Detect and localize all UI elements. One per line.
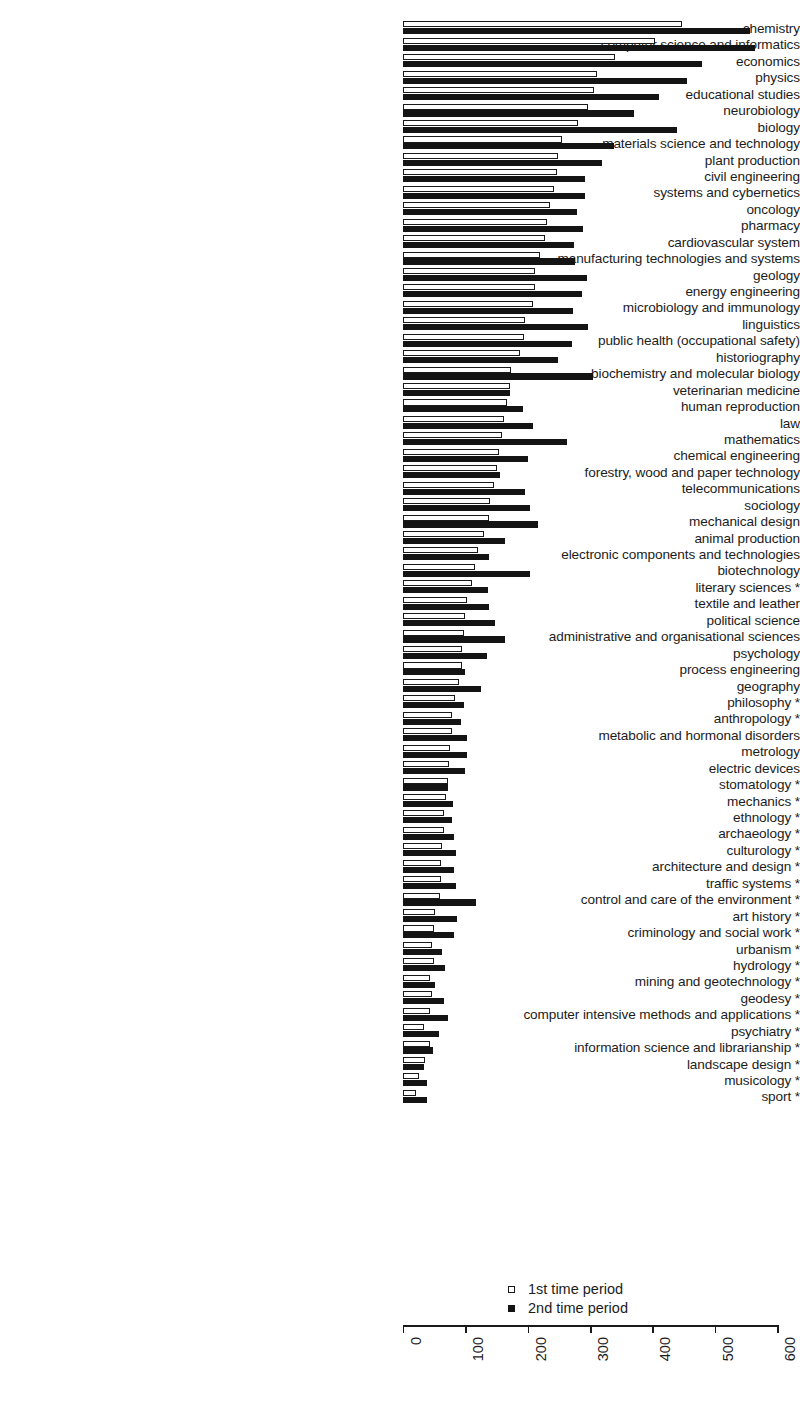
bar-second-time-period	[403, 275, 587, 281]
bar-first-time-period	[403, 301, 533, 307]
chart-row: mechanical design	[0, 514, 800, 530]
bar-first-time-period	[403, 515, 489, 521]
chart-row: law	[0, 416, 800, 432]
chart-row: traffic systems *	[0, 876, 800, 892]
bar-second-time-period	[403, 406, 523, 412]
bar-group	[403, 481, 793, 497]
bar-second-time-period	[403, 538, 505, 544]
bar-first-time-period	[403, 120, 578, 126]
chart-row: archaeology *	[0, 826, 800, 842]
bar-second-time-period	[403, 1015, 448, 1021]
bar-second-time-period	[403, 127, 677, 133]
bar-group	[403, 514, 793, 530]
bar-second-time-period	[403, 341, 572, 347]
bar-first-time-period	[403, 1041, 430, 1047]
bar-second-time-period	[403, 653, 487, 659]
chart-row: geography	[0, 679, 800, 695]
bar-group	[403, 399, 793, 415]
chart-row: literary sciences *	[0, 580, 800, 596]
bar-first-time-period	[403, 169, 557, 175]
bar-second-time-period	[403, 817, 452, 823]
bar-first-time-period	[403, 860, 441, 866]
bar-group	[403, 991, 793, 1007]
bar-group	[403, 218, 793, 234]
bar-group	[403, 909, 793, 925]
bar-group	[403, 1024, 793, 1040]
bar-first-time-period	[403, 630, 464, 636]
chart-row: plant production	[0, 153, 800, 169]
bar-first-time-period	[403, 679, 459, 685]
chart-row: forestry, wood and paper technology	[0, 465, 800, 481]
chart-row: criminology and social work *	[0, 925, 800, 941]
bar-group	[403, 728, 793, 744]
bar-group	[403, 974, 793, 990]
chart-row: biotechnology	[0, 563, 800, 579]
bar-first-time-period	[403, 219, 547, 225]
bar-group	[403, 432, 793, 448]
bar-second-time-period	[403, 735, 467, 741]
bar-second-time-period	[403, 702, 464, 708]
axis-tick	[652, 1325, 654, 1333]
bar-group	[403, 1089, 793, 1105]
bar-group	[403, 37, 793, 53]
bar-group	[403, 695, 793, 711]
chart-row: biochemistry and molecular biology	[0, 366, 800, 382]
chart-row: biology	[0, 120, 800, 136]
bar-group	[403, 563, 793, 579]
legend-swatch-open-icon	[508, 1286, 515, 1293]
axis-tick-label: 300	[596, 1337, 611, 1361]
bar-second-time-period	[403, 752, 467, 758]
bar-group	[403, 284, 793, 300]
legend-item-first-period: 1st time period	[508, 1280, 738, 1299]
bar-first-time-period	[403, 958, 434, 964]
bar-second-time-period	[403, 308, 573, 314]
bar-first-time-period	[403, 350, 520, 356]
chart-row: public health (occupational safety)	[0, 333, 800, 349]
chart-row: manufacturing technologies and systems	[0, 251, 800, 267]
bar-first-time-period	[403, 252, 540, 258]
axis-tick	[777, 1325, 779, 1333]
bar-first-time-period	[403, 613, 465, 619]
bar-group	[403, 942, 793, 958]
chart-row: mechanics *	[0, 794, 800, 810]
bar-first-time-period	[403, 843, 442, 849]
bar-second-time-period	[403, 45, 755, 51]
bar-group	[403, 21, 793, 37]
bar-group	[403, 1007, 793, 1023]
chart-row: geodesy *	[0, 991, 800, 1007]
chart-row: energy engineering	[0, 284, 800, 300]
bar-first-time-period	[403, 498, 490, 504]
bar-second-time-period	[403, 554, 489, 560]
bar-group	[403, 268, 793, 284]
bar-second-time-period	[403, 867, 454, 873]
chart-row: historiography	[0, 350, 800, 366]
bar-group	[403, 103, 793, 119]
bar-second-time-period	[403, 1064, 424, 1070]
chart-row: chemistry	[0, 21, 800, 37]
bar-first-time-period	[403, 531, 484, 537]
bar-group	[403, 300, 793, 316]
chart-row: psychiatry *	[0, 1024, 800, 1040]
bar-second-time-period	[403, 916, 457, 922]
chart-row: sport *	[0, 1089, 800, 1105]
bar-second-time-period	[403, 899, 476, 905]
chart-row: computer intensive methods and applicati…	[0, 1007, 800, 1023]
bar-group	[403, 120, 793, 136]
chart-legend: 1st time period 2nd time period	[508, 1280, 738, 1318]
chart-row: metabolic and hormonal disorders	[0, 728, 800, 744]
chart-row: hydrology *	[0, 958, 800, 974]
chart-row: animal production	[0, 531, 800, 547]
chart-row: geology	[0, 268, 800, 284]
bar-second-time-period	[403, 1047, 433, 1053]
bar-second-time-period	[403, 489, 525, 495]
bar-first-time-period	[403, 268, 535, 274]
bar-first-time-period	[403, 104, 588, 110]
bar-group	[403, 317, 793, 333]
bar-group	[403, 350, 793, 366]
bar-group	[403, 794, 793, 810]
bar-first-time-period	[403, 54, 615, 60]
bar-first-time-period	[403, 71, 597, 77]
chart-row: ethnology *	[0, 810, 800, 826]
chart-row: philosophy *	[0, 695, 800, 711]
bar-first-time-period	[403, 136, 562, 142]
